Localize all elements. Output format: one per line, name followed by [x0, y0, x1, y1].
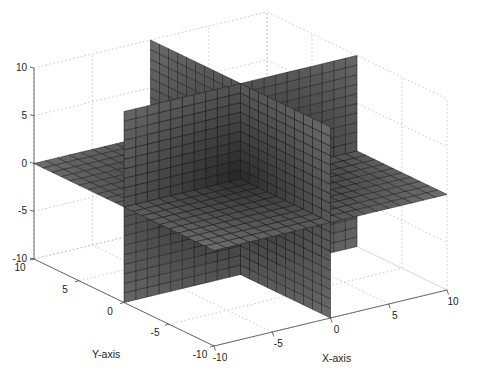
x-tick — [214, 346, 216, 351]
z-tick — [30, 163, 34, 164]
x-tick — [389, 304, 391, 309]
z-tick-label: -10 — [13, 253, 28, 264]
z-tick-label: 10 — [16, 62, 28, 73]
x-tick-label: 10 — [447, 296, 459, 307]
y-axis-label: Y-axis — [92, 348, 120, 360]
x-tick — [447, 290, 449, 295]
y-tick-label: 0 — [107, 306, 113, 317]
y-tick — [210, 346, 214, 347]
slice-plot-3d: -10-50510-10-50510-10-50510 X-axis Y-axi… — [0, 0, 477, 375]
y-tick — [165, 324, 169, 325]
y-tick-label: 5 — [62, 284, 68, 295]
x-tick-label: -10 — [213, 352, 228, 363]
z-tick-label: 5 — [21, 110, 27, 121]
z-tick — [30, 115, 34, 116]
y-tick — [75, 281, 79, 282]
z-tick — [30, 67, 34, 68]
y-tick-label: -10 — [193, 349, 208, 360]
z-tick — [30, 258, 34, 259]
x-tick-label: 0 — [334, 324, 340, 335]
slice-surfaces — [34, 40, 447, 318]
y-tick — [120, 303, 124, 304]
x-axis-label: X-axis — [322, 352, 351, 364]
y-tick-label: -5 — [151, 327, 160, 338]
x-tick — [272, 332, 274, 337]
z-tick — [30, 210, 34, 211]
x-tick-label: -5 — [274, 338, 283, 349]
z-tick-label: 0 — [21, 158, 27, 169]
x-tick — [331, 318, 333, 323]
z-tick-label: -5 — [18, 205, 27, 216]
x-tick-label: 5 — [392, 310, 398, 321]
